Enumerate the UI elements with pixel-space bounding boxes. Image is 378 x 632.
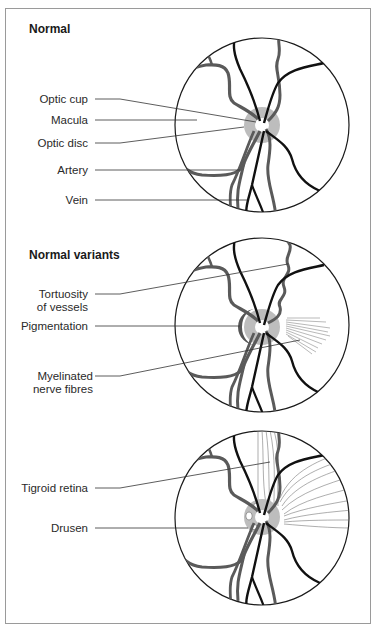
fundus-diagrams <box>0 0 378 632</box>
fundus-normal-variants <box>95 229 349 423</box>
fundus-normal <box>95 21 349 221</box>
fundus-tigroid-drusen <box>95 413 352 613</box>
